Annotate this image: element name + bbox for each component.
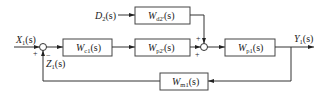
arrowhead [219, 45, 225, 49]
arrowhead [202, 38, 206, 44]
sum2-plus-top-sign: + [196, 34, 201, 43]
input-x1-label: X1(s) [15, 34, 36, 46]
arrowhead [208, 79, 214, 83]
arrowhead [41, 51, 45, 57]
sum2-plus-left-sign: + [195, 50, 200, 59]
arrowhead [57, 45, 63, 49]
arrowhead [129, 45, 135, 49]
sum1-plus-sign: + [33, 49, 38, 58]
input-d2-label: D2(s) [94, 10, 116, 22]
arrowhead [195, 45, 201, 49]
block-diagram: X1(s) + − Wc1(s) Wp2'(s) D2(s) Wd2'(s) +… [0, 0, 326, 99]
output-y1-label: Y1(s) [294, 33, 313, 45]
summing-junction-1 [40, 44, 47, 51]
arrowhead [308, 45, 314, 49]
arrowhead [129, 13, 135, 17]
summing-junction-2 [201, 44, 208, 51]
feedback-z1-label: Z1(s) [46, 58, 65, 70]
